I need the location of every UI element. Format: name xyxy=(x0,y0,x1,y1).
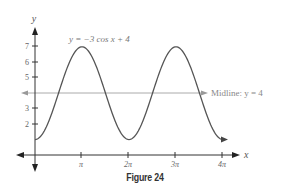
x-tick-label-4pi: 4π xyxy=(218,160,227,169)
x-tick-label-2pi: 2π xyxy=(124,160,133,169)
x-tick-label-pi: π xyxy=(79,160,84,169)
y-tick-label-3: 3 xyxy=(25,104,29,113)
y-axis-label: y xyxy=(31,13,37,24)
midline xyxy=(21,91,208,96)
y-axis-up-arrow-icon xyxy=(32,27,38,35)
figure-caption: Figure 24 xyxy=(17,172,272,183)
x-axis-right-arrow-icon xyxy=(232,152,240,158)
y-axis-down-arrow-icon xyxy=(32,164,38,172)
curve-end-arrow-icon xyxy=(221,137,228,143)
x-tick-label-3pi: 3π xyxy=(170,160,180,169)
cosine-graph: π 2π 3π 4π x 7 6 5 3 2 y y = −3 cos x + … xyxy=(0,0,290,192)
y-tick-label-5: 5 xyxy=(25,73,29,82)
y-tick-label-6: 6 xyxy=(25,58,29,67)
x-axis: π 2π 3π 4π x xyxy=(16,149,249,169)
x-axis-label: x xyxy=(243,149,249,160)
equation-label: y = −3 cos x + 4 xyxy=(68,34,130,44)
y-tick-label-7: 7 xyxy=(25,42,29,51)
midline-label: Midline: y = 4 xyxy=(211,88,263,98)
y-tick-label-2: 2 xyxy=(25,120,29,129)
midline-left-arrow-icon xyxy=(21,91,28,96)
midline-right-arrow-icon xyxy=(201,91,208,96)
x-axis-left-arrow-icon xyxy=(16,152,24,158)
